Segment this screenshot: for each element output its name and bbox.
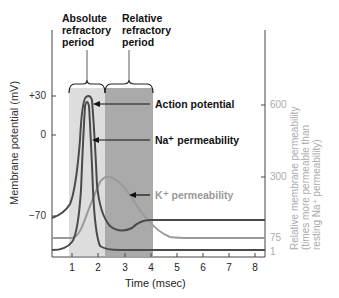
- tick-right-300: 300: [270, 171, 287, 182]
- tick-right-600: 600: [270, 99, 287, 110]
- tick-x-3: 3: [118, 262, 132, 273]
- relative-line-1: Relative: [122, 12, 171, 24]
- relative-line-3: period: [122, 36, 171, 48]
- relative-refractory-label: Relative refractory period: [122, 12, 171, 48]
- absolute-line-1: Absolute: [62, 12, 111, 24]
- right-y-title-line-1: Relative membrane permeability: [289, 107, 300, 250]
- relative-refractory-band: [105, 88, 153, 256]
- right-y-axis-title: Relative membrane permeability (times mo…: [289, 107, 322, 250]
- k-permeability-label: K⁺ permeability: [155, 189, 233, 201]
- tick-x-7: 7: [222, 262, 236, 273]
- absolute-line-2: refractory: [62, 24, 111, 36]
- absolute-line-3: period: [62, 36, 111, 48]
- right-y-title-line-3: resting Na⁺ permeability): [311, 107, 322, 250]
- tick-x-6: 6: [196, 262, 210, 273]
- tick-right-75: 75: [270, 232, 281, 243]
- absolute-refractory-band: [69, 88, 105, 256]
- tick-x-5: 5: [170, 262, 184, 273]
- left-y-axis-title: Membrane potential (mV): [8, 81, 20, 205]
- right-y-title-line-2: (times more permeable than: [300, 107, 311, 250]
- absolute-refractory-label: Absolute refractory period: [62, 12, 111, 48]
- na-permeability-label: Na⁺ permeability: [155, 134, 239, 146]
- action-potential-label: Action potential: [155, 98, 234, 110]
- tick-left-0: 0: [16, 129, 46, 140]
- tick-left-m70: −70: [16, 210, 46, 221]
- tick-x-2: 2: [91, 262, 105, 273]
- relative-line-2: refractory: [122, 24, 171, 36]
- tick-x-8: 8: [248, 262, 262, 273]
- tick-x-4: 4: [144, 262, 158, 273]
- x-axis-title: Time (msec): [125, 277, 186, 289]
- tick-x-1: 1: [65, 262, 79, 273]
- tick-left-p30: +30: [16, 90, 46, 101]
- tick-right-1: 1: [270, 246, 276, 257]
